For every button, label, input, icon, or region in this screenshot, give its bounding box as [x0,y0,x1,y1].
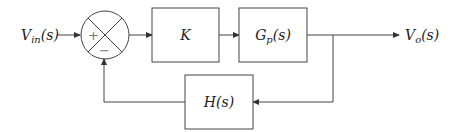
block-h-label: H(s) [203,94,234,110]
block-gp: Gp(s) [239,8,307,62]
block-diagram: Vin(s) + − K Gp(s) Vo(s) H(s) [0,0,459,132]
minus-sign: − [99,43,110,58]
output-label: Vo(s) [405,27,439,45]
block-h: H(s) [185,75,253,129]
plus-sign: + [88,28,99,43]
input-label: Vin(s) [21,27,59,45]
summing-junction: + − [81,11,129,59]
block-k: K [152,8,219,62]
h-to-junction-arrow [104,59,185,102]
block-k-label: K [179,27,192,43]
block-gp-label: Gp(s) [255,27,291,45]
